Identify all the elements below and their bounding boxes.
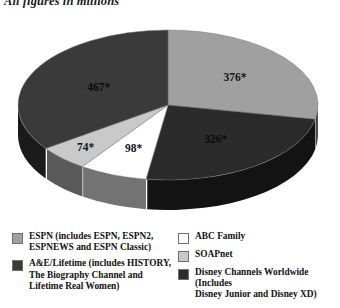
- legend-label-espn-line2: ESPNEWS and ESPN Classic): [29, 242, 151, 252]
- pie-data-label-2: 98*: [125, 142, 143, 154]
- legend-label-ae-lifetime-line1: A&E/Lifetime (includes HISTORY,: [29, 258, 171, 268]
- legend-item-ae-lifetime[interactable]: A&E/Lifetime (includes HISTORY, The Biog…: [12, 258, 172, 292]
- legend-item-soapnet[interactable]: SOAPnet: [178, 249, 340, 262]
- pie-chart-svg: 376*326*98*74*467*: [0, 8, 340, 230]
- legend-label-ae-lifetime-line2: The Biography Channel and: [29, 270, 143, 280]
- legend-column-right: ABC Family SOAPnet Disney Channels World…: [178, 231, 340, 306]
- legend-column-left: ESPN (includes ESPN, ESPN2, ESPNEWS and …: [12, 231, 172, 297]
- legend-label-ae-lifetime: A&E/Lifetime (includes HISTORY, The Biog…: [29, 258, 171, 292]
- legend-swatch-disney-worldwide: [178, 269, 189, 280]
- legend-swatch-ae-lifetime: [12, 260, 23, 271]
- legend-label-espn-line1: ESPN (includes ESPN, ESPN2,: [29, 231, 153, 241]
- pie-data-label-0: 376*: [224, 71, 247, 83]
- legend-label-disney-worldwide-line2: Disney Junior and Disney XD): [195, 289, 317, 299]
- chart-canvas: All figures in millions 376*326*98*74*46…: [0, 0, 340, 308]
- pie-data-label-3: 74*: [77, 141, 95, 153]
- legend-label-disney-worldwide: Disney Channels Worldwide (Includes Disn…: [195, 267, 340, 301]
- legend-item-espn[interactable]: ESPN (includes ESPN, ESPN2, ESPNEWS and …: [12, 231, 172, 253]
- chart-legend: ESPN (includes ESPN, ESPN2, ESPNEWS and …: [0, 231, 340, 308]
- legend-swatch-espn: [12, 233, 23, 244]
- legend-item-disney-worldwide[interactable]: Disney Channels Worldwide (Includes Disn…: [178, 267, 340, 301]
- legend-label-abc-family: ABC Family: [195, 231, 245, 242]
- legend-label-ae-lifetime-line3: Lifetime Real Women): [29, 281, 119, 291]
- legend-swatch-soapnet: [178, 251, 189, 262]
- pie-chart: 376*326*98*74*467*: [0, 8, 340, 230]
- pie-data-label-4: 467*: [87, 81, 110, 93]
- legend-swatch-abc-family: [178, 233, 189, 244]
- legend-label-soapnet: SOAPnet: [195, 249, 233, 260]
- legend-label-disney-worldwide-line1: Disney Channels Worldwide (Includes: [195, 267, 308, 288]
- legend-item-abc-family[interactable]: ABC Family: [178, 231, 340, 244]
- pie-data-label-1: 326*: [204, 133, 227, 145]
- legend-label-espn: ESPN (includes ESPN, ESPN2, ESPNEWS and …: [29, 231, 153, 253]
